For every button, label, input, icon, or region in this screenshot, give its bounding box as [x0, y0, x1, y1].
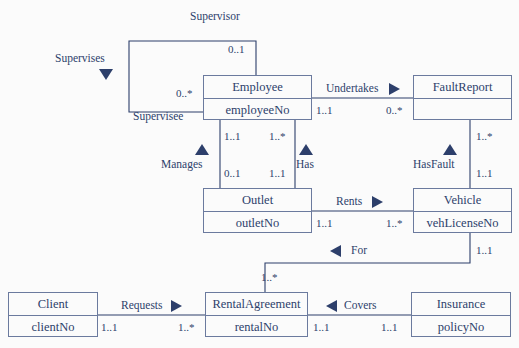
class-box-faultreport[interactable]: FaultReport: [413, 75, 512, 120]
multiplicity-undertakes-source: 1..1: [316, 105, 333, 116]
class-box-insurance[interactable]: Insurance policyNo: [411, 292, 511, 337]
association-label-manages: Manages: [161, 159, 203, 171]
multiplicity-requests-target: 1..*: [178, 322, 195, 333]
class-attribute-insurance: policyNo: [412, 316, 510, 338]
multiplicity-manages-source: 1..1: [224, 131, 241, 142]
class-attribute-rentalagreement: rentalNo: [206, 316, 307, 338]
association-arrow-manages: [195, 144, 209, 155]
association-label-rents: Rents: [336, 196, 362, 208]
role-label-supervisee: Supervisee: [133, 111, 183, 123]
uml-class-diagram: Employee employeeNo FaultReport Outlet o…: [0, 0, 519, 348]
multiplicity-manages-target: 0..1: [224, 168, 241, 179]
class-box-client[interactable]: Client clientNo: [8, 292, 98, 337]
multiplicity-requests-source: 1..1: [101, 322, 118, 333]
class-attribute-outlet: outletNo: [204, 212, 311, 234]
association-arrow-requests: [171, 300, 182, 312]
association-label-has: Has: [296, 159, 314, 171]
role-label-supervisor: Supervisor: [190, 11, 240, 23]
association-label-requests: Requests: [121, 300, 163, 312]
association-arrow-covers: [326, 300, 337, 312]
class-attribute-employee: employeeNo: [204, 99, 311, 121]
class-name-faultreport: FaultReport: [414, 76, 511, 99]
association-label-for: For: [351, 245, 367, 257]
association-arrow-undertakes: [389, 83, 400, 95]
multiplicity-undertakes-target: 0..*: [386, 105, 403, 116]
class-box-employee[interactable]: Employee employeeNo: [203, 75, 312, 120]
association-label-covers: Covers: [344, 300, 377, 312]
multiplicity-supervises-source: 0..1: [228, 44, 245, 55]
association-label-hasfault: HasFault: [413, 159, 455, 171]
multiplicity-hasfault-source: 1..*: [476, 131, 493, 142]
class-name-vehicle: Vehicle: [414, 189, 511, 212]
association-arrow-rents: [372, 196, 383, 208]
class-attribute-client: clientNo: [9, 316, 97, 338]
class-box-rentalagreement[interactable]: RentalAgreement rentalNo: [205, 292, 308, 337]
multiplicity-supervises-target: 0..*: [176, 88, 193, 99]
multiplicity-for-source: 1..1: [476, 245, 493, 256]
multiplicity-hasfault-target: 1..1: [476, 168, 493, 179]
multiplicity-covers-target: 1..1: [381, 322, 398, 333]
association-label-supervises: Supervises: [55, 53, 105, 65]
multiplicity-rents-target: 1..*: [386, 218, 403, 229]
class-name-insurance: Insurance: [412, 293, 510, 316]
multiplicity-has-target: 1..1: [269, 168, 286, 179]
multiplicity-rents-source: 1..1: [316, 218, 333, 229]
class-name-rentalagreement: RentalAgreement: [206, 293, 307, 316]
class-name-outlet: Outlet: [204, 189, 311, 212]
multiplicity-has-source: 1..*: [269, 131, 286, 142]
multiplicity-for-target: 1..*: [261, 272, 278, 283]
class-box-vehicle[interactable]: Vehicle vehLicenseNo: [413, 188, 512, 233]
association-arrow-hasfault: [443, 144, 457, 155]
class-name-employee: Employee: [204, 76, 311, 99]
association-arrow-supervises: [99, 69, 113, 80]
class-box-outlet[interactable]: Outlet outletNo: [203, 188, 312, 233]
association-arrow-for: [330, 245, 341, 257]
class-attribute-vehicle: vehLicenseNo: [414, 212, 511, 234]
association-arrow-has: [299, 144, 313, 155]
class-name-client: Client: [9, 293, 97, 316]
multiplicity-covers-source: 1..1: [313, 322, 330, 333]
association-label-undertakes: Undertakes: [326, 83, 378, 95]
class-attribute-faultreport: [414, 99, 511, 121]
